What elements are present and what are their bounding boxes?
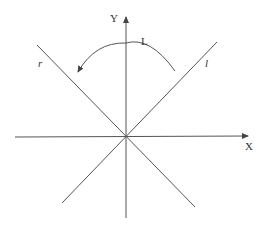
coordinate-diagram: Y X L l r xyxy=(0,0,266,229)
line-l-label: l xyxy=(205,57,208,69)
x-axis xyxy=(15,136,248,137)
y-axis-label: Y xyxy=(110,12,118,24)
line-l xyxy=(62,42,217,203)
rotation-label: L xyxy=(141,35,148,47)
line-r xyxy=(37,45,195,207)
line-r-label: r xyxy=(38,57,43,69)
x-axis-label: X xyxy=(245,140,253,152)
